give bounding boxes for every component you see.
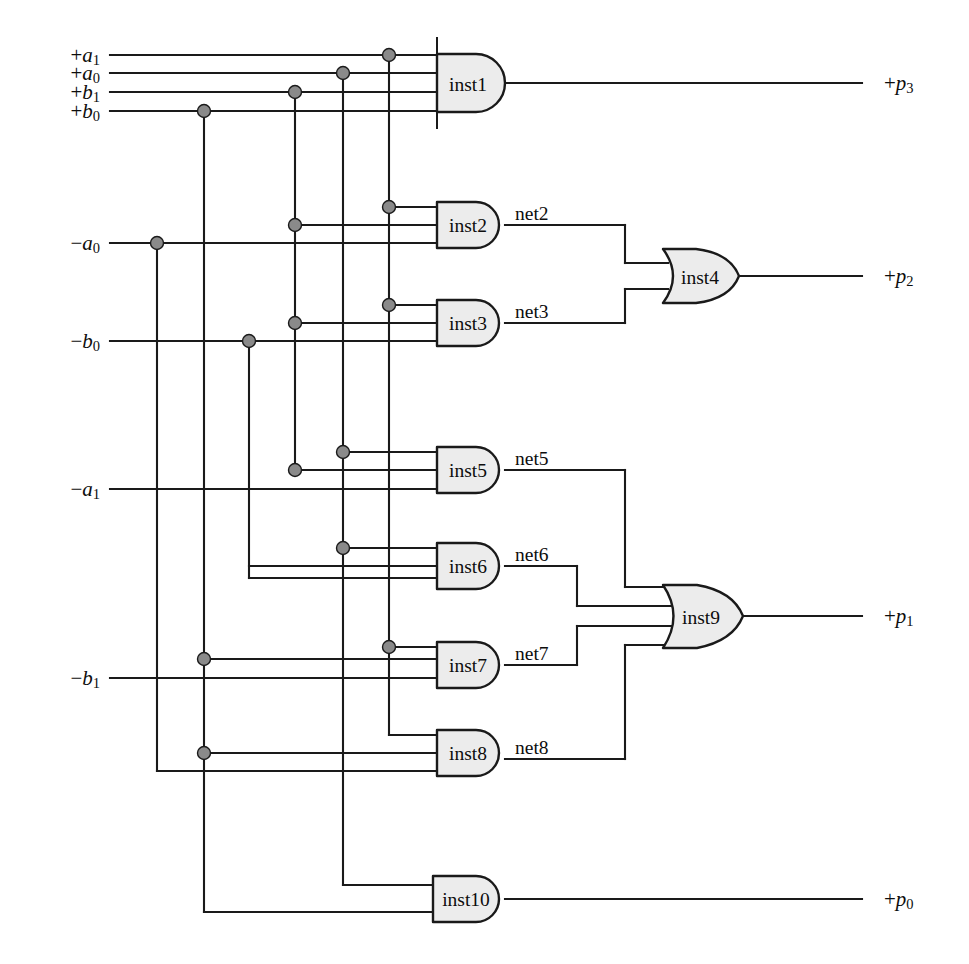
schematic-canvas: inst1 inst2 inst3 inst4 inst5 inst6 inst… bbox=[0, 0, 969, 964]
junction-pa1-inst7 bbox=[383, 641, 396, 654]
gate-inst4[interactable]: inst4 bbox=[663, 249, 739, 303]
net-label-net6: net6 bbox=[515, 544, 549, 565]
junction-pb0-inst8 bbox=[198, 747, 211, 760]
inst3-label: inst3 bbox=[449, 313, 487, 334]
inst6-label: inst6 bbox=[449, 556, 487, 577]
output-label-p0: +p0 bbox=[884, 887, 914, 912]
inst2-label: inst2 bbox=[449, 215, 487, 236]
output-labels-group: +p3 +p2 +p1 +p0 bbox=[884, 71, 914, 912]
vertical-buses-group bbox=[204, 55, 389, 912]
inst7-label: inst7 bbox=[449, 655, 487, 676]
gate-inst7[interactable]: inst7 bbox=[437, 642, 499, 688]
input-label-na0: −a0 bbox=[70, 231, 100, 256]
inst8-label: inst8 bbox=[449, 743, 487, 764]
net-label-net7: net7 bbox=[515, 643, 549, 664]
junction-pb1-tap bbox=[289, 86, 302, 99]
input-labels-group: +a1 +a0 +b1 +b0 −a0 −b0 −a1 −b1 bbox=[70, 43, 100, 691]
gate-inst2[interactable]: inst2 bbox=[437, 202, 499, 248]
inst1-label: inst1 bbox=[449, 74, 487, 95]
circuit-diagram: inst1 inst2 inst3 inst4 inst5 inst6 inst… bbox=[0, 0, 969, 964]
junction-pb0-inst7 bbox=[198, 653, 211, 666]
junction-pb1-inst3 bbox=[289, 317, 302, 330]
net-routing-or9-group bbox=[505, 470, 672, 759]
gate-inst3[interactable]: inst3 bbox=[437, 300, 499, 346]
junction-dots-group bbox=[151, 49, 396, 760]
junction-pb1-inst5 bbox=[289, 464, 302, 477]
output-wires-group bbox=[505, 83, 862, 899]
junction-na0-drop bbox=[151, 237, 164, 250]
junction-pa1-inst2 bbox=[383, 201, 396, 214]
gate-inst6[interactable]: inst6 bbox=[437, 543, 499, 589]
junction-pa0-inst6 bbox=[337, 542, 350, 555]
net-label-net5: net5 bbox=[515, 448, 549, 469]
junction-pb1-inst2 bbox=[289, 219, 302, 232]
net-label-net8: net8 bbox=[515, 737, 549, 758]
inst9-label: inst9 bbox=[682, 607, 720, 628]
gate-input-stubs-group bbox=[204, 207, 437, 912]
input-label-nb1: −b1 bbox=[70, 666, 100, 691]
net-labels-group: net2 net3 net5 net6 net7 net8 bbox=[515, 203, 549, 758]
gate-inst10[interactable]: inst10 bbox=[433, 876, 499, 922]
input-label-na1: −a1 bbox=[70, 477, 100, 502]
inst10-label: inst10 bbox=[442, 889, 490, 910]
junction-pa0-tap bbox=[337, 67, 350, 80]
gate-inst1[interactable]: inst1 bbox=[437, 38, 505, 128]
inst4-label: inst4 bbox=[681, 267, 719, 288]
gate-inst8[interactable]: inst8 bbox=[437, 730, 499, 776]
input-label-nb0: −b0 bbox=[70, 329, 100, 354]
junction-pa1-inst3 bbox=[383, 299, 396, 312]
net-label-net3: net3 bbox=[515, 301, 549, 322]
output-label-p1: +p1 bbox=[884, 604, 914, 629]
junction-pb0-tap bbox=[198, 105, 211, 118]
net-label-net2: net2 bbox=[515, 203, 549, 224]
inst5-label: inst5 bbox=[449, 460, 487, 481]
output-label-p2: +p2 bbox=[884, 264, 914, 289]
junction-nb0-drop bbox=[243, 335, 256, 348]
junction-pa0-inst5 bbox=[337, 446, 350, 459]
junction-pa1-tap bbox=[383, 49, 396, 62]
output-label-p3: +p3 bbox=[884, 71, 914, 96]
gate-inst9[interactable]: inst9 bbox=[663, 585, 743, 648]
gate-inst5[interactable]: inst5 bbox=[437, 447, 499, 493]
